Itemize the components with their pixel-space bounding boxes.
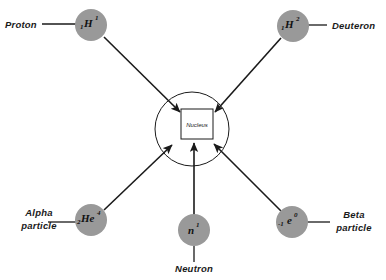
label-alpha-particle-line1: Alpha — [24, 207, 52, 218]
label-proton: Proton — [5, 19, 37, 30]
label-neutron: Neutron — [175, 263, 213, 274]
label-beta-particle-line2: particle — [335, 222, 372, 233]
label-beta-particle-line1: Beta — [343, 209, 364, 220]
proton-symbol-element: H — [83, 17, 93, 29]
deuteron-symbol-subscript: 1 — [281, 24, 285, 32]
nucleus-label: Nucleus — [186, 122, 208, 128]
label-alpha-particle-line2: particle — [20, 220, 57, 231]
deuteron-symbol-superscript: 2 — [295, 15, 300, 23]
alpha-symbol-element: He — [80, 212, 95, 224]
label-deuteron: Deuteron — [332, 20, 375, 31]
beta-symbol-superscript: 0 — [294, 211, 298, 219]
diagram-canvas: Nucleus 1 H 1 Proton 1 H 2 Deuteron 2 He… — [0, 0, 386, 280]
proton-symbol-superscript: 1 — [95, 14, 99, 22]
beam-deuteron — [215, 38, 281, 112]
beam-beta-particle — [214, 144, 281, 211]
proton-symbol-subscript: 1 — [80, 23, 84, 31]
nuclear-bombardment-diagram: Nucleus 1 H 1 Proton 1 H 2 Deuteron 2 He… — [0, 0, 386, 280]
deuteron-symbol-element: H — [284, 18, 294, 30]
beta-symbol-subscript: -1 — [278, 220, 284, 228]
neutron-symbol-element: n — [188, 224, 194, 236]
beam-alpha-particle — [104, 145, 172, 210]
beta-symbol-element: e — [287, 214, 292, 226]
alpha-symbol-superscript: 4 — [96, 209, 101, 217]
neutron-symbol-superscript: 1 — [196, 221, 200, 229]
